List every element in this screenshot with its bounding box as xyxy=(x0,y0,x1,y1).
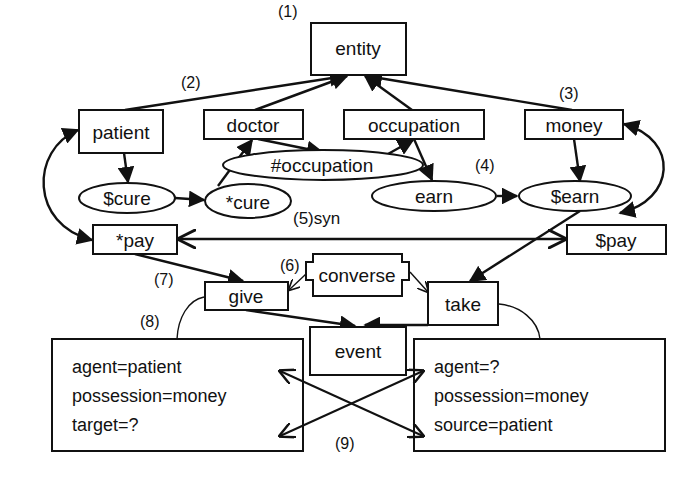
semantic-network-diagram: entity patient doctor occupation money #… xyxy=(0,0,697,481)
take-attr-possession: possession=money xyxy=(434,386,589,406)
node-take-label: take xyxy=(445,294,481,315)
node-entity-label: entity xyxy=(335,38,381,59)
node-event: event xyxy=(310,327,406,375)
edge-patient-cure xyxy=(124,153,128,182)
node-converse-label: converse xyxy=(318,265,395,286)
node-doctor: doctor xyxy=(204,110,303,139)
node-star-cure: *cure xyxy=(205,184,291,218)
edge-starpay-give xyxy=(135,254,243,281)
node-dollar-cure-label: $cure xyxy=(103,188,151,209)
node-entity: entity xyxy=(311,23,406,75)
node-dollar-pay-label: $pay xyxy=(595,230,637,251)
node-dollar-earn-label: $earn xyxy=(551,186,600,207)
node-star-pay: *pay xyxy=(93,225,177,254)
arc-take-attributes xyxy=(499,304,540,339)
edge-patient-entity xyxy=(125,76,345,110)
arc-give-attributes xyxy=(177,297,204,339)
edge-doctor-entity xyxy=(255,76,347,110)
give-attr-possession: possession=money xyxy=(72,386,227,406)
take-attr-agent: agent=? xyxy=(434,357,500,377)
label-8: (8) xyxy=(140,313,160,330)
node-earn-label: earn xyxy=(415,186,453,207)
edge-hashoccupation-occupation xyxy=(388,140,413,154)
give-attr-target: target=? xyxy=(72,415,139,435)
edge-money-entity xyxy=(367,76,572,110)
node-star-pay-label: *pay xyxy=(116,230,155,251)
node-occupation-label: occupation xyxy=(368,115,460,136)
node-patient-label: patient xyxy=(92,122,150,143)
label-4: (4) xyxy=(475,157,495,174)
give-attributes-box: agent=patient possession=money target=? xyxy=(52,339,303,451)
node-take: take xyxy=(428,282,498,325)
label-5-syn: (5)syn xyxy=(293,209,340,228)
node-doctor-label: doctor xyxy=(227,115,280,136)
edge-dollarearn-take xyxy=(470,211,580,281)
node-dollar-earn: $earn xyxy=(519,181,631,211)
label-3: (3) xyxy=(559,85,579,102)
node-event-label: event xyxy=(335,341,382,362)
node-occupation: occupation xyxy=(344,110,484,139)
node-give: give xyxy=(205,282,288,310)
node-patient: patient xyxy=(79,110,163,153)
node-hash-occupation-label: #occupation xyxy=(271,155,373,176)
node-star-cure-label: *cure xyxy=(226,192,270,213)
edge-money-dollarearn xyxy=(574,139,580,181)
node-money: money xyxy=(525,110,623,139)
node-converse: converse xyxy=(306,254,409,296)
node-dollar-pay: $pay xyxy=(567,225,666,254)
take-attributes-box: agent=? possession=money source=patient xyxy=(414,339,665,451)
edge-dollarcure-starcure xyxy=(175,198,204,200)
node-earn: earn xyxy=(372,181,496,211)
node-give-label: give xyxy=(229,286,264,307)
edge-converse-take xyxy=(410,272,428,292)
node-money-label: money xyxy=(545,115,603,136)
label-6: (6) xyxy=(280,257,300,274)
edge-converse-give xyxy=(289,274,306,290)
label-7: (7) xyxy=(154,271,174,288)
take-attr-source: source=patient xyxy=(434,415,553,435)
label-2: (2) xyxy=(181,74,201,91)
node-hash-occupation: #occupation xyxy=(223,150,423,180)
label-9: (9) xyxy=(335,435,355,452)
edge-give-event xyxy=(246,310,355,326)
node-dollar-cure: $cure xyxy=(79,183,175,213)
label-1: (1) xyxy=(278,3,298,20)
give-attr-agent: agent=patient xyxy=(72,357,182,377)
